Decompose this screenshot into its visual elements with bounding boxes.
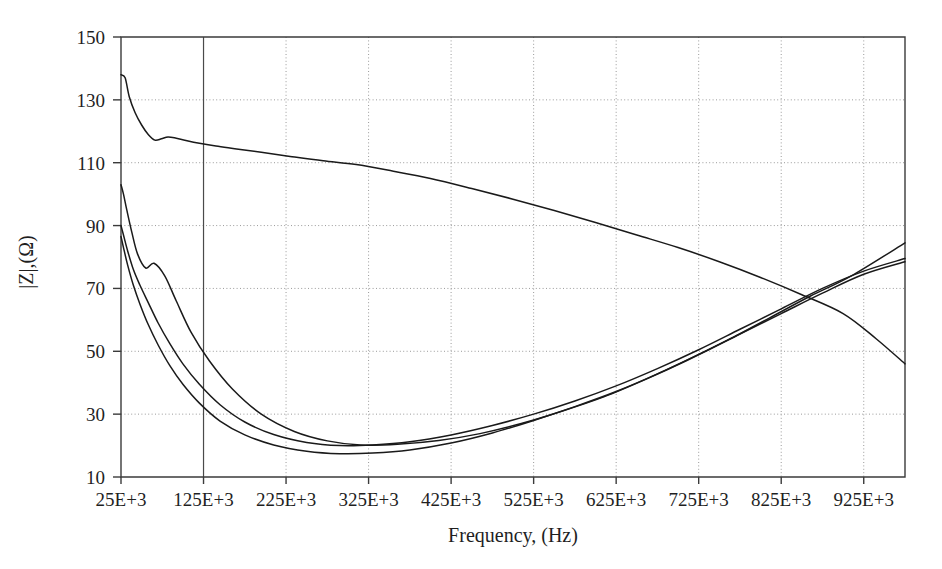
x-tick-label: 625E+3 [586, 489, 646, 510]
x-tick-label: 725E+3 [669, 489, 729, 510]
x-tick-label: 325E+3 [338, 489, 398, 510]
y-tick-label: 90 [86, 216, 105, 237]
y-tick-label: 50 [86, 341, 105, 362]
x-tick-label: 925E+3 [834, 489, 894, 510]
y-tick-label: 150 [77, 27, 106, 48]
x-tick-label: 525E+3 [503, 489, 563, 510]
y-tick-label: 130 [77, 90, 106, 111]
x-axis-title: Frequency, (Hz) [448, 524, 578, 547]
x-tick-label: 125E+3 [173, 489, 233, 510]
y-tick-label: 70 [86, 278, 105, 299]
y-tick-label: 110 [77, 153, 105, 174]
x-tick-label: 225E+3 [256, 489, 316, 510]
x-tick-label: 25E+3 [96, 489, 147, 510]
x-tick-label: 425E+3 [421, 489, 481, 510]
figure-background [0, 0, 942, 569]
impedance-magnitude-plot: 25E+3125E+3225E+3325E+3425E+3525E+3625E+… [0, 0, 942, 569]
y-tick-label: 30 [86, 404, 105, 425]
chart-figure: 25E+3125E+3225E+3325E+3425E+3525E+3625E+… [0, 0, 942, 569]
y-tick-label: 10 [86, 467, 105, 488]
x-tick-label: 825E+3 [751, 489, 811, 510]
y-axis-title: |Z|,(Ω) [15, 235, 38, 288]
